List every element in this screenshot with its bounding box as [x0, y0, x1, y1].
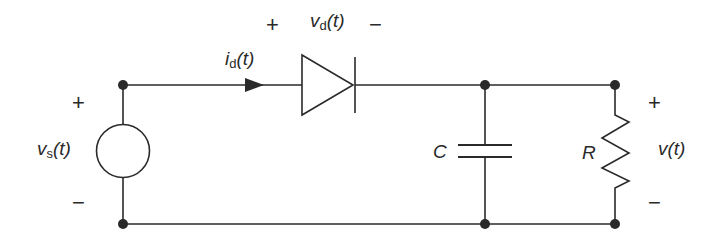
output-voltage-label: v(t): [658, 138, 685, 160]
node-dot: [480, 219, 490, 229]
circuit-schematic: [0, 0, 718, 238]
node-dot: [610, 219, 620, 229]
capacitor-label: C: [433, 141, 447, 163]
diode-minus-sign: −: [369, 14, 382, 36]
resistor-label: R: [582, 142, 596, 164]
source-plus-sign: +: [72, 92, 85, 114]
voltage-source-icon: [97, 125, 150, 178]
node-dot: [480, 80, 490, 90]
diode-current-label: id(t): [225, 48, 254, 71]
node-dot: [610, 80, 620, 90]
diode-voltage-label: vd(t): [310, 10, 345, 33]
diode-plus-sign: +: [266, 14, 279, 36]
diode-icon: [302, 55, 353, 115]
current-arrow-icon: [245, 78, 264, 92]
node-dot: [118, 80, 128, 90]
output-minus-sign: −: [648, 192, 661, 214]
source-minus-sign: −: [72, 192, 85, 214]
resistor-icon: [602, 85, 629, 224]
node-dot: [118, 219, 128, 229]
output-plus-sign: +: [648, 92, 661, 114]
source-voltage-label: vs(t): [37, 138, 71, 161]
